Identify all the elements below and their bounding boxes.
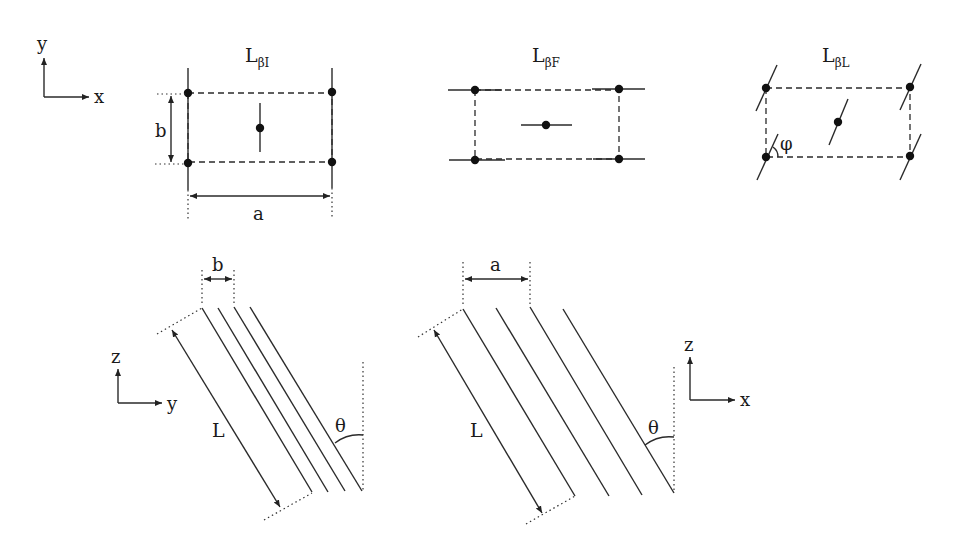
x-axis-label-bottom: x xyxy=(740,389,750,410)
y-axis-label: y xyxy=(36,33,48,54)
z-axis-label-left: z xyxy=(111,346,120,367)
lattice-diagram: y x LβI b a LβF LβL xyxy=(0,0,956,543)
lbf-title: LβF xyxy=(532,44,560,70)
phi-label: φ xyxy=(780,133,793,154)
b-label: b xyxy=(155,120,167,141)
panel-lbi: LβI b a xyxy=(155,44,336,224)
theta-arc xyxy=(335,435,363,443)
axes-xy: y x xyxy=(36,33,104,107)
y-axis-label-bottom: y xyxy=(166,393,178,414)
theta-label-right: θ xyxy=(648,417,659,438)
phi-arc xyxy=(773,147,778,157)
side-view-yz: b L θ z y xyxy=(111,254,363,520)
length-label-right: L xyxy=(470,419,483,441)
length-label: L xyxy=(212,419,225,441)
panel-lbf: LβF xyxy=(448,44,645,164)
lbl-title: LβL xyxy=(822,44,850,70)
x-axis-label: x xyxy=(94,86,104,107)
a-label: a xyxy=(253,203,264,224)
theta-label: θ xyxy=(335,415,346,436)
b-spacing-label: b xyxy=(212,254,224,275)
panel-lbl: LβL φ xyxy=(756,44,921,180)
a-spacing-label: a xyxy=(490,254,501,275)
side-view-xz: a L θ z x xyxy=(418,254,750,524)
lbi-title: LβI xyxy=(245,44,270,70)
z-axis-label-right: z xyxy=(684,334,693,355)
